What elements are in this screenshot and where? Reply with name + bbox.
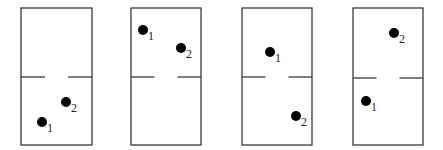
particle-label: 2 [71,101,77,115]
particle-1-dot [361,96,371,106]
particle-1-dot [37,117,47,127]
particle-label: 2 [301,115,307,129]
particle-2-dot [176,43,186,53]
room-outline [353,8,423,145]
particle-label: 1 [148,29,154,43]
particle-label: 2 [186,47,192,61]
panel-1: 12 [21,8,92,145]
particle-label: 1 [47,121,53,135]
panel-4: 12 [353,8,423,145]
particle-2-dot [291,111,301,121]
particle-2-dot [61,97,71,107]
particle-label: 1 [371,100,377,114]
particle-label: 2 [399,32,405,46]
particle-label: 1 [275,51,281,65]
particle-2-dot [389,28,399,38]
panel-3: 12 [242,8,312,145]
panel-2: 12 [131,8,201,145]
particle-1-dot [265,47,275,57]
particle-1-dot [138,25,148,35]
diagram-canvas: 12121212 [0,0,443,150]
